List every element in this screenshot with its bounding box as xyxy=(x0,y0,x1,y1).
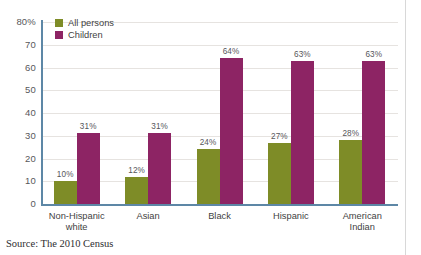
bar-value-label: 63% xyxy=(356,50,391,59)
page-edge-rule xyxy=(405,0,406,255)
source-note: Source: The 2010 Census xyxy=(6,238,113,249)
legend-swatch-icon xyxy=(55,31,63,39)
y-tick-label: 0 xyxy=(0,198,36,209)
legend-item: All persons xyxy=(55,17,114,29)
bar-value-label: 63% xyxy=(285,50,320,59)
bar-all-persons xyxy=(268,143,291,204)
y-tick-label: 50 xyxy=(0,84,36,95)
bar-value-label: 31% xyxy=(142,122,177,131)
legend-item-label: Children xyxy=(68,30,103,40)
y-tick-label: 40 xyxy=(0,107,36,118)
x-category-label-line: American xyxy=(321,211,404,222)
x-category-label-line: white xyxy=(35,222,118,233)
y-tick-label: 80% xyxy=(0,16,36,27)
bar-all-persons xyxy=(197,149,220,204)
x-category-label: AmericanIndian xyxy=(321,211,404,233)
bar-value-label: 27% xyxy=(262,132,297,141)
bar-value-label: 12% xyxy=(119,166,154,175)
bar-children xyxy=(77,133,100,204)
bar-value-label: 31% xyxy=(71,122,106,131)
x-category-label-line: Indian xyxy=(321,222,404,233)
chart-legend: All personsChildren xyxy=(55,17,114,41)
gridline xyxy=(43,45,398,46)
y-tick-label: 70 xyxy=(0,39,36,50)
bar-value-label: 10% xyxy=(48,170,83,179)
y-tick-label: 20 xyxy=(0,153,36,164)
legend-item-label: All persons xyxy=(68,18,114,28)
x-axis-line xyxy=(41,204,398,206)
y-tick-label: 60 xyxy=(0,62,36,73)
bar-all-persons xyxy=(125,177,148,204)
bar-value-label: 28% xyxy=(333,129,368,138)
y-tick-label: 10 xyxy=(0,175,36,186)
legend-swatch-icon xyxy=(55,19,63,27)
bar-value-label: 64% xyxy=(214,47,249,56)
legend-item: Children xyxy=(55,29,114,41)
bar-children xyxy=(220,58,243,204)
y-axis-line xyxy=(41,20,43,206)
chart-figure: 80%706050403020100 10%31%12%31%24%64%27%… xyxy=(0,0,421,255)
bar-all-persons xyxy=(54,181,77,204)
bar-all-persons xyxy=(339,140,362,204)
y-tick-label: 30 xyxy=(0,130,36,141)
cropped-title-remnant xyxy=(55,0,355,5)
bar-value-label: 24% xyxy=(191,138,226,147)
